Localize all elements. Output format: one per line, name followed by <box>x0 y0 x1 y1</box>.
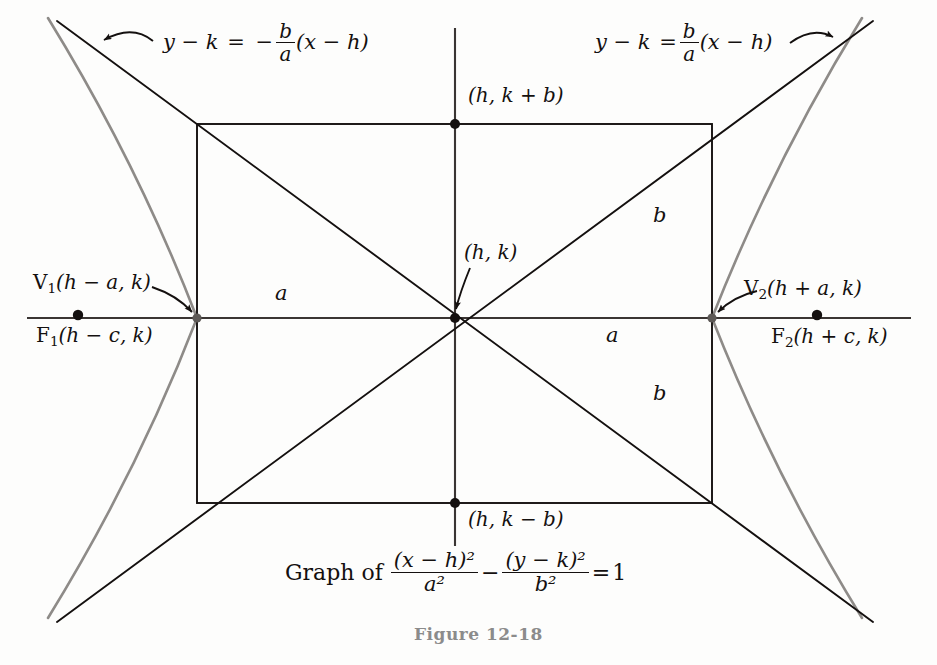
asymptote-right-slope-denominator: a <box>680 43 699 64</box>
asymptote-right-equals: = <box>657 30 679 54</box>
caption-term2-numerator: (y − k)² <box>502 550 588 573</box>
vertex-right-label: V2(h + a, k) <box>744 278 862 301</box>
vertex-right-dot <box>707 313 716 322</box>
center-label: (h, k) <box>464 242 517 262</box>
figure-caption-equation: Graph of (x − h)²a²−(y − k)²b²=1 <box>285 551 626 596</box>
asymptote-left-slope-numerator: b <box>276 21 295 43</box>
co-vertex-bottom-label: (h, k − b) <box>468 509 564 529</box>
caption-prefix: Graph of <box>285 560 383 585</box>
semi-axis-b-upper-label: b <box>653 205 666 226</box>
caption-term2-denominator: b² <box>502 573 588 595</box>
focus-left-name: F <box>36 323 50 347</box>
focus-left-subscript: 1 <box>50 333 59 349</box>
focus-right-label: F2(h + c, k) <box>771 326 888 349</box>
semi-axis-b-lower-label: b <box>653 383 666 404</box>
caption-operator: − <box>479 560 501 585</box>
asymptote-left-equation: y − k = −ba(x − h) <box>163 22 369 65</box>
caption-term1-numerator: (x − h)² <box>391 550 478 573</box>
asymptote-left-lhs: y − k <box>163 30 219 54</box>
asymptote-left-slope-fraction: ba <box>276 21 295 64</box>
asymptote-left-factor: (x − h) <box>296 30 369 54</box>
asymptote-right-factor: (x − h) <box>700 30 773 54</box>
asymptote-right-lhs: y − k <box>595 30 651 54</box>
semi-axis-a-right-label: a <box>606 325 619 346</box>
leader-arrow-center <box>456 268 470 309</box>
asymptote-right-slope-fraction: ba <box>680 21 699 64</box>
point-markers <box>73 119 822 508</box>
leader-arrows <box>104 32 833 312</box>
focus-left-dot <box>73 310 83 320</box>
focus-right-coords: (h + c, k) <box>794 324 888 348</box>
focus-right-subscript: 2 <box>785 334 794 350</box>
asymptote-lines <box>57 21 873 622</box>
leader-arrow-asymptote-right <box>790 33 833 43</box>
vertex-right-coords: (h + a, k) <box>767 276 862 300</box>
figure-number: Figure 12-18 <box>414 626 543 643</box>
vertex-left-name: V <box>33 270 47 294</box>
asymptote-left-sign: − <box>254 30 276 54</box>
vertex-left-label: V1(h − a, k) <box>33 272 151 295</box>
co-vertex-bottom-dot <box>450 498 460 508</box>
caption-right-side: 1 <box>612 560 626 585</box>
focus-left-label: F1(h − c, k) <box>36 325 153 348</box>
vertex-left-dot <box>192 313 201 322</box>
semi-axis-a-left-label: a <box>275 283 288 304</box>
caption-equals: = <box>590 560 612 585</box>
leader-arrow-asymptote-left <box>104 32 153 41</box>
asymptote-left-slope-denominator: a <box>276 43 295 64</box>
focus-left-coords: (h − c, k) <box>59 323 153 347</box>
vertex-right-subscript: 2 <box>758 286 767 302</box>
caption-term1-denominator: a² <box>391 573 478 595</box>
caption-term2-fraction: (y − k)²b² <box>502 550 588 595</box>
vertex-left-coords: (h − a, k) <box>56 270 151 294</box>
center-point-dot <box>450 313 460 323</box>
hyperbola-figure: y − k = −ba(x − h) y − k =ba(x − h) (h, … <box>0 0 937 665</box>
focus-right-name: F <box>771 324 785 348</box>
focus-right-dot <box>812 310 822 320</box>
asymptote-left-equals: = <box>225 30 247 54</box>
asymptote-right-slope-numerator: b <box>680 21 699 43</box>
co-vertex-top-dot <box>450 119 460 129</box>
vertex-right-name: V <box>744 276 758 300</box>
vertex-left-subscript: 1 <box>47 280 56 296</box>
caption-term1-fraction: (x − h)²a² <box>391 550 478 595</box>
co-vertex-top-label: (h, k + b) <box>468 85 564 105</box>
asymptote-right-equation: y − k =ba(x − h) <box>595 22 772 65</box>
